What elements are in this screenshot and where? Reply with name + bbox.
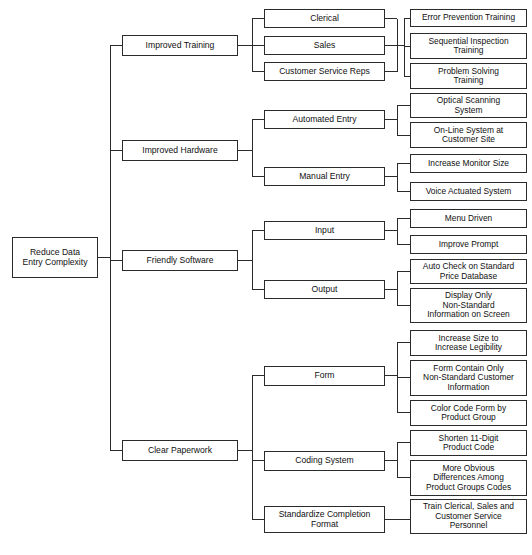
node-label: Improve Prompt [413, 240, 524, 249]
node-sales[interactable]: Sales [264, 36, 385, 55]
node-label: More ObviousDifferences AmongProduct Gro… [413, 464, 524, 492]
node-automated-entry[interactable]: Automated Entry [264, 110, 385, 129]
node-coding-system[interactable]: Coding System [264, 451, 385, 471]
node-label: Automated Entry [267, 115, 382, 125]
node-label: Color Code Form byProduct Group [413, 404, 524, 423]
node-label: Shorten 11-DigitProduct Code [413, 434, 524, 453]
node-clerical[interactable]: Clerical [264, 9, 385, 28]
node-form-contain-only-non-standard-customer-information[interactable]: Form Contain OnlyNon-Standard CustomerIn… [410, 360, 527, 396]
node-label: Train Clerical, Sales andCustomer Servic… [413, 502, 524, 530]
node-label: Sales [267, 41, 382, 51]
node-label: Sequential InspectionTraining [413, 37, 524, 56]
node-label: Display OnlyNon-StandardInformation on S… [413, 291, 524, 319]
node-error-prevention-training[interactable]: Error Prevention Training [410, 9, 527, 27]
node-label: Form Contain OnlyNon-Standard CustomerIn… [413, 364, 524, 392]
node-increase-monitor-size[interactable]: Increase Monitor Size [410, 154, 527, 173]
node-label: Optical ScanningSystem [413, 96, 524, 115]
node-display-only-non-standard-information[interactable]: Display OnlyNon-StandardInformation on S… [410, 288, 527, 323]
node-label: Manual Entry [267, 172, 382, 182]
node-shorten-11-digit-product-code[interactable]: Shorten 11-DigitProduct Code [410, 430, 527, 456]
node-increase-size-increase-legibility[interactable]: Increase Size toIncrease Legibility [410, 330, 527, 356]
node-label: Coding System [267, 456, 382, 466]
node-improved-training[interactable]: Improved Training [122, 35, 238, 56]
node-label: Improved Training [125, 41, 235, 51]
node-label: On-Line System atCustomer Site [413, 126, 524, 145]
node-customer-service-reps[interactable]: Customer Service Reps [264, 62, 385, 81]
node-color-code-form-by-product-group[interactable]: Color Code Form byProduct Group [410, 400, 527, 426]
tree-diagram-canvas: Reduce DataEntry Complexity Improved Tra… [0, 0, 532, 555]
node-label: Auto Check on StandardPrice Database [413, 262, 524, 281]
node-sequential-inspection-training[interactable]: Sequential InspectionTraining [410, 33, 527, 59]
node-improve-prompt[interactable]: Improve Prompt [410, 235, 527, 254]
node-auto-check-standard-price-database[interactable]: Auto Check on StandardPrice Database [410, 259, 527, 284]
node-label: Voice Actuated System [413, 187, 524, 196]
node-train-clerical-sales-customer-service-personnel[interactable]: Train Clerical, Sales andCustomer Servic… [410, 499, 527, 534]
node-form[interactable]: Form [264, 366, 385, 386]
node-menu-driven[interactable]: Menu Driven [410, 209, 527, 228]
node-problem-solving-training[interactable]: Problem SolvingTraining [410, 63, 527, 89]
node-friendly-software[interactable]: Friendly Software [122, 250, 238, 271]
node-output[interactable]: Output [264, 280, 385, 299]
node-label: Standardize CompletionFormat [267, 510, 382, 529]
node-optical-scanning-system[interactable]: Optical ScanningSystem [410, 93, 527, 118]
node-label: Error Prevention Training [413, 13, 524, 22]
node-label: Customer Service Reps [267, 67, 382, 77]
node-label: Friendly Software [125, 256, 235, 266]
node-label: Menu Driven [413, 214, 524, 223]
node-label: Increase Monitor Size [413, 159, 524, 168]
node-label: Output [267, 285, 382, 295]
node-label: Clerical [267, 14, 382, 24]
node-root-label: Reduce DataEntry Complexity [15, 248, 95, 267]
node-more-obvious-differences-among-product-groups-codes[interactable]: More ObviousDifferences AmongProduct Gro… [410, 460, 527, 496]
node-label: Clear Paperwork [125, 446, 235, 456]
node-label: Improved Hardware [125, 146, 235, 156]
node-label: Input [267, 226, 382, 236]
node-online-system-customer-site[interactable]: On-Line System atCustomer Site [410, 122, 527, 148]
node-label: Increase Size toIncrease Legibility [413, 334, 524, 353]
node-manual-entry[interactable]: Manual Entry [264, 167, 385, 186]
node-label: Form [267, 371, 382, 381]
node-clear-paperwork[interactable]: Clear Paperwork [122, 440, 238, 461]
node-improved-hardware[interactable]: Improved Hardware [122, 140, 238, 161]
node-voice-actuated-system[interactable]: Voice Actuated System [410, 182, 527, 201]
node-label: Problem SolvingTraining [413, 67, 524, 86]
node-input[interactable]: Input [264, 221, 385, 240]
node-standardize-completion-format[interactable]: Standardize CompletionFormat [264, 506, 385, 533]
node-root[interactable]: Reduce DataEntry Complexity [12, 237, 98, 278]
